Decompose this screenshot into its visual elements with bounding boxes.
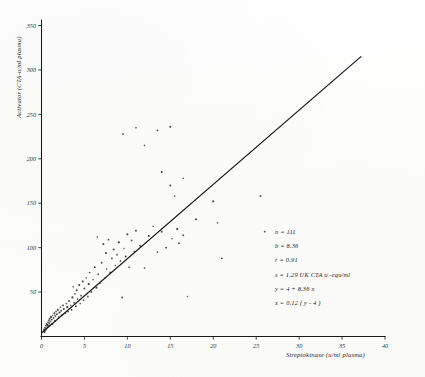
data-point bbox=[89, 272, 91, 274]
data-point bbox=[259, 195, 261, 197]
stat-line: y = 4 + 8.36 x bbox=[274, 285, 314, 292]
y-axis-ticks: 50100150200250300350 bbox=[26, 22, 42, 296]
data-point bbox=[212, 200, 214, 202]
y-tick-label: 250 bbox=[27, 111, 37, 118]
data-point bbox=[95, 287, 97, 289]
data-point bbox=[161, 231, 163, 233]
data-point bbox=[92, 279, 94, 281]
statistics-annotation: n = 111b = 8.36r = 0.91s = 1.29 UK CTA u… bbox=[274, 228, 350, 307]
data-point bbox=[187, 296, 189, 298]
data-point bbox=[49, 318, 51, 320]
data-point bbox=[122, 133, 124, 135]
data-point bbox=[52, 314, 54, 316]
data-point bbox=[50, 316, 52, 318]
y-tick-label: 50 bbox=[30, 288, 37, 295]
stat-line: r = 0.91 bbox=[275, 256, 298, 263]
data-point bbox=[74, 293, 76, 295]
data-point bbox=[118, 241, 120, 243]
data-point bbox=[53, 317, 55, 319]
data-point bbox=[165, 247, 167, 249]
data-point bbox=[51, 319, 53, 321]
y-tick-label: 200 bbox=[27, 155, 37, 162]
data-point bbox=[66, 306, 68, 308]
data-point bbox=[264, 231, 266, 233]
y-tick-label: 300 bbox=[26, 66, 37, 73]
data-point bbox=[125, 256, 127, 258]
data-point bbox=[115, 265, 117, 267]
data-point bbox=[169, 184, 171, 186]
x-tick-label: 10 bbox=[124, 342, 131, 349]
data-point bbox=[157, 251, 159, 253]
data-point bbox=[152, 226, 154, 228]
data-point bbox=[60, 306, 62, 308]
data-point bbox=[54, 315, 56, 317]
data-point bbox=[144, 267, 146, 269]
data-point bbox=[79, 303, 81, 305]
x-tick-label: 25 bbox=[253, 342, 259, 349]
stat-line: n = 111 bbox=[275, 228, 296, 235]
data-point bbox=[217, 222, 219, 224]
x-tick-label: 15 bbox=[167, 342, 173, 349]
y-tick-label: 150 bbox=[27, 199, 37, 206]
data-point bbox=[70, 305, 72, 307]
data-point bbox=[62, 305, 64, 307]
x-axis-title: Streptokinase (u/ml plasma) bbox=[286, 351, 365, 359]
data-point bbox=[135, 127, 137, 129]
data-point bbox=[50, 320, 52, 322]
data-point bbox=[128, 266, 130, 268]
data-point bbox=[83, 299, 85, 301]
data-point bbox=[71, 309, 73, 311]
y-tick-label: 100 bbox=[27, 244, 37, 251]
data-point bbox=[123, 248, 125, 250]
data-point bbox=[101, 262, 103, 264]
data-point bbox=[56, 313, 58, 315]
data-point bbox=[135, 230, 137, 232]
data-point bbox=[55, 311, 57, 313]
data-point bbox=[57, 309, 59, 311]
x-tick-label: 5 bbox=[83, 342, 86, 349]
data-point bbox=[221, 257, 223, 259]
x-tick-label: 40 bbox=[382, 342, 389, 349]
data-point bbox=[195, 218, 197, 220]
data-point bbox=[60, 310, 62, 312]
figure-scatter-plot: 50100150200250300350 0510152025303540 Ac… bbox=[0, 0, 425, 377]
data-point bbox=[169, 126, 171, 128]
data-point bbox=[131, 240, 133, 242]
data-point bbox=[88, 283, 90, 285]
data-point bbox=[126, 233, 128, 235]
data-point bbox=[63, 308, 65, 310]
scatter-plot-canvas: 50100150200250300350 0510152025303540 Ac… bbox=[0, 0, 425, 377]
data-point bbox=[48, 322, 50, 324]
data-point bbox=[182, 234, 184, 236]
data-point bbox=[82, 280, 84, 282]
data-point bbox=[75, 305, 77, 307]
data-point bbox=[111, 257, 113, 259]
data-point bbox=[157, 129, 159, 131]
y-axis-title: Activator (CTA-u/ml plasma) bbox=[15, 36, 23, 119]
data-point bbox=[171, 238, 173, 240]
x-tick-label: 35 bbox=[338, 342, 345, 349]
data-point bbox=[121, 296, 123, 298]
data-point bbox=[148, 235, 150, 237]
data-point bbox=[108, 239, 110, 241]
x-tick-label: 20 bbox=[210, 342, 217, 349]
data-point bbox=[83, 288, 85, 290]
data-point bbox=[90, 291, 92, 293]
data-point bbox=[116, 254, 118, 256]
data-point bbox=[68, 300, 70, 302]
x-tick-label: 0 bbox=[40, 342, 44, 349]
data-point bbox=[106, 268, 108, 270]
stat-line: b = 8.36 bbox=[275, 242, 299, 249]
x-tick-label: 30 bbox=[295, 342, 303, 349]
data-points-layer bbox=[43, 126, 266, 333]
data-point bbox=[59, 312, 61, 314]
data-point bbox=[48, 319, 50, 321]
data-point bbox=[102, 243, 104, 245]
data-point bbox=[113, 248, 115, 250]
data-point bbox=[174, 195, 176, 197]
data-point bbox=[77, 298, 79, 300]
data-point bbox=[76, 289, 78, 291]
data-point bbox=[65, 303, 67, 305]
data-point bbox=[144, 145, 146, 147]
data-point bbox=[94, 266, 96, 268]
